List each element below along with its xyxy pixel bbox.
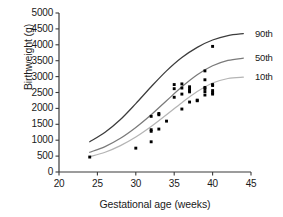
x-axis-title: Gestational age (weeks) bbox=[59, 198, 251, 210]
y-axis-tick-label-text: 4500 bbox=[20, 24, 53, 34]
data-point bbox=[211, 45, 214, 48]
curve-label-90th: 90th bbox=[255, 29, 273, 39]
data-point bbox=[150, 140, 153, 143]
y-axis-tick-label: 3000 bbox=[20, 72, 53, 82]
y-axis-tick-label-text: 1000 bbox=[20, 135, 53, 145]
y-axis-tick-label-text: 5000 bbox=[20, 8, 53, 18]
percentile-curve-50th bbox=[90, 58, 244, 152]
x-axis-tick-label: 45 bbox=[236, 179, 266, 189]
curve-label-50th: 50th bbox=[255, 53, 273, 63]
percentile-curve-10th bbox=[90, 77, 244, 157]
data-point bbox=[134, 147, 137, 150]
y-axis-tick-label: 5000 bbox=[20, 8, 53, 18]
data-point bbox=[188, 101, 191, 104]
curve-label-10th: 10th bbox=[255, 72, 273, 82]
y-axis-tick-label: 0 bbox=[20, 167, 53, 177]
y-axis-tick-label: 4000 bbox=[20, 40, 53, 50]
data-point bbox=[150, 128, 153, 131]
y-axis-tick-label-text: 2000 bbox=[20, 103, 53, 113]
data-point bbox=[203, 86, 206, 89]
x-axis-tick-label: 35 bbox=[159, 179, 189, 189]
data-point bbox=[180, 82, 183, 85]
y-axis-tick-label-text: 3000 bbox=[20, 72, 53, 82]
data-point bbox=[173, 96, 176, 99]
data-point bbox=[211, 89, 214, 92]
y-axis-tick-label: 2500 bbox=[20, 88, 53, 98]
x-axis-tick-label: 25 bbox=[82, 179, 112, 189]
y-axis-tick-label-text: 3500 bbox=[20, 56, 53, 66]
x-axis-tick-label: 20 bbox=[44, 179, 74, 189]
data-point bbox=[88, 156, 91, 159]
data-point bbox=[203, 69, 206, 72]
data-point bbox=[203, 94, 206, 97]
data-point bbox=[188, 85, 191, 88]
data-point bbox=[203, 90, 206, 93]
y-axis-tick-label: 2000 bbox=[20, 103, 53, 113]
y-axis-tick-label-text: 4000 bbox=[20, 40, 53, 50]
y-axis-tick-label: 4500 bbox=[20, 24, 53, 34]
data-point bbox=[180, 93, 183, 96]
data-point bbox=[196, 99, 199, 102]
data-point bbox=[150, 115, 153, 118]
y-axis-tick-label: 3500 bbox=[20, 56, 53, 66]
y-axis-tick-label: 500 bbox=[20, 151, 53, 161]
data-point bbox=[173, 83, 176, 86]
data-point bbox=[173, 87, 176, 90]
y-axis-tick-label: 1000 bbox=[20, 135, 53, 145]
x-axis-tick-label: 40 bbox=[198, 179, 228, 189]
birthweight-gestational-age-chart: Birthweight (g) Gestational age (weeks) … bbox=[0, 0, 283, 217]
y-axis-tick-label-text: 0 bbox=[20, 167, 53, 177]
data-point bbox=[211, 83, 214, 86]
data-point bbox=[180, 87, 183, 90]
percentile-curve-90th bbox=[90, 34, 244, 142]
data-point bbox=[165, 120, 168, 123]
y-axis-tick-label: 1500 bbox=[20, 119, 53, 129]
y-axis-tick-label-text: 2500 bbox=[20, 88, 53, 98]
data-point bbox=[157, 112, 160, 115]
x-axis-tick-label: 30 bbox=[121, 179, 151, 189]
data-point bbox=[180, 108, 183, 111]
y-axis-tick-label-text: 500 bbox=[20, 151, 53, 161]
data-point bbox=[157, 128, 160, 131]
data-point bbox=[203, 78, 206, 81]
y-axis-tick-label-text: 1500 bbox=[20, 119, 53, 129]
